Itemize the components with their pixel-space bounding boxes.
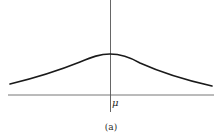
distribution-diagram: μ (a) bbox=[0, 0, 223, 138]
mu-label: μ bbox=[112, 97, 119, 108]
bell-curve bbox=[10, 54, 212, 86]
figure-caption: (a) bbox=[105, 122, 117, 132]
